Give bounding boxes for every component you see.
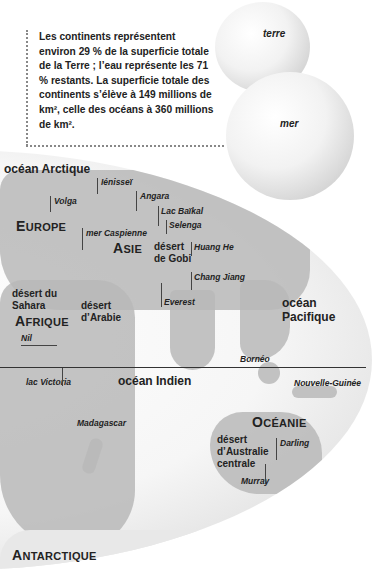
australia-desert-label: désert d’Australie centrale (217, 434, 269, 470)
chang-jiang-marker (191, 272, 192, 290)
selenga-marker (166, 220, 167, 234)
new-guinea-label: Nouvelle-Guinée (294, 378, 361, 388)
chang-jiang-label: Chang Jiang (194, 272, 245, 282)
victoria-marker (62, 368, 63, 386)
africa-label: AFRIQUE (15, 313, 69, 329)
gobi-desert-label: désert de Gobi (154, 241, 191, 265)
antarctica-label: ANTARCTIQUE (12, 547, 97, 563)
victoria-label: lac Victoria (26, 377, 71, 387)
everest-marker (161, 283, 162, 307)
nil-marker (21, 345, 57, 346)
caspian-marker (82, 228, 83, 250)
baikal-label: Lac Baïkal (161, 206, 203, 216)
yenisei-marker (97, 178, 98, 194)
info-box-divider (26, 145, 224, 147)
oceania-label: OCÉANIE (252, 414, 307, 430)
darling-marker (276, 438, 277, 460)
land-globe-label: terre (263, 28, 285, 39)
volga-label: Volga (54, 196, 77, 206)
arabia-desert-label: désert d’Arabie (81, 300, 121, 324)
yenisei-label: Iénisseï (101, 177, 132, 187)
angara-label: Angara (140, 191, 169, 201)
baikal-marker (158, 206, 159, 226)
sea-globe-label: mer (280, 118, 298, 129)
selenga-label: Selenga (169, 220, 202, 230)
madagascar-label: Madagascar (77, 418, 126, 428)
borneo-label: Bornéo (240, 354, 270, 364)
equator-line (0, 367, 366, 368)
volga-marker (50, 196, 51, 212)
nil-label: Nil (21, 333, 32, 343)
asia-label: ASIE (113, 240, 142, 256)
angara-marker (136, 191, 137, 211)
info-text-box: Les continents représentent environ 29 %… (26, 30, 214, 146)
huang-he-label: Huang He (194, 242, 234, 252)
caspian-label: mer Caspienne (86, 228, 147, 238)
darling-label: Darling (280, 438, 309, 448)
indian-ocean-label: océan Indien (118, 374, 191, 388)
arctic-ocean-label: océan Arctique (4, 162, 90, 176)
info-text: Les continents représentent environ 29 %… (39, 31, 213, 130)
sahara-desert-label: désert du Sahara (12, 288, 57, 312)
europe-label: EUROPE (16, 218, 66, 234)
pacific-ocean-label-1: océan (282, 296, 317, 310)
borneo-landmass (258, 362, 280, 384)
everest-label: Everest (164, 297, 195, 307)
pacific-ocean-label-2: Pacifique (282, 310, 335, 324)
